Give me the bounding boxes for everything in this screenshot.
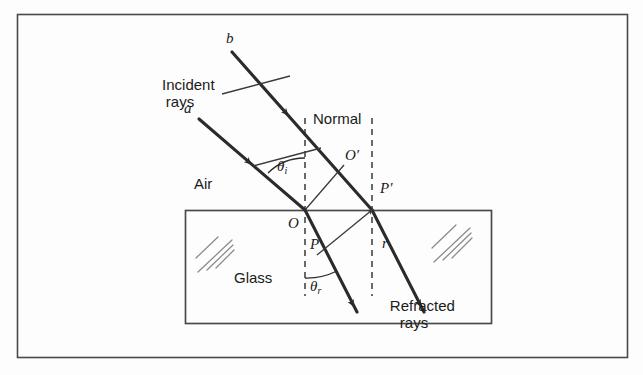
normal-label: Normal (313, 111, 361, 128)
angle-arc-theta-r (305, 271, 337, 278)
angle-theta-r-subscript: r (317, 285, 321, 296)
air-label: Air (194, 176, 212, 193)
angle-theta-i-label: θi (277, 158, 287, 176)
wavefront-air-3-O-to-Oprime (305, 165, 344, 210)
glass-hatch-left (196, 237, 234, 272)
wavefront-glass-1 (317, 210, 372, 255)
ray-a-label: a (184, 100, 192, 117)
incident-ray-b (232, 52, 372, 210)
glass-hatch-right (432, 225, 472, 262)
incident-rays-label: Incident rays (141, 60, 219, 127)
figure-frame (18, 15, 628, 358)
angle-theta-r-label: θr (310, 278, 321, 296)
refraction-diagram-svg (0, 0, 643, 375)
point-P-prime-label: P′ (380, 180, 392, 197)
incident-ray-a (199, 119, 305, 210)
ray-b-label: b (226, 30, 234, 47)
refracted-ray-from-O (305, 210, 357, 312)
point-O-prime-label: O′ (345, 147, 359, 164)
angle-theta-i-subscript: i (284, 165, 287, 176)
refracted-rays-label: Refracted rays (369, 281, 459, 348)
glass-label: Glass (234, 270, 272, 287)
point-O-label: O (288, 215, 299, 232)
segment-r-label: r (382, 235, 388, 252)
figure-canvas: Incident rays b a Normal Air Glass O O′ … (0, 0, 643, 375)
point-P-label: P (310, 236, 319, 253)
